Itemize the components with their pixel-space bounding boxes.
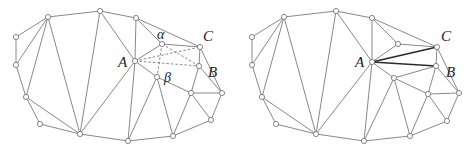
vertex-node bbox=[259, 94, 264, 99]
label-B-left: B bbox=[208, 64, 217, 80]
vertex-node bbox=[456, 90, 461, 95]
triangulation-edge bbox=[316, 134, 364, 141]
triangulation-edge bbox=[428, 66, 436, 94]
triangulation-edge bbox=[128, 61, 135, 141]
triangulation-edge bbox=[276, 124, 316, 134]
triangulation-edge bbox=[135, 61, 157, 77]
vertex-node bbox=[273, 121, 278, 126]
vertex-node bbox=[313, 131, 318, 136]
vertex-node bbox=[434, 44, 439, 49]
triangulation-edge bbox=[428, 94, 447, 121]
triangulation-edge bbox=[191, 93, 211, 120]
vertex-node bbox=[249, 34, 254, 39]
triangulation-edge bbox=[284, 17, 316, 134]
flipped-edge bbox=[372, 47, 437, 62]
triangulation-edge bbox=[128, 77, 157, 141]
triangulation-edge bbox=[16, 65, 26, 97]
vertex-node bbox=[444, 118, 449, 123]
label-C-left: C bbox=[203, 28, 214, 44]
triangulation-edge bbox=[336, 11, 372, 18]
vertex-node bbox=[281, 14, 286, 19]
triangulation-edge bbox=[262, 97, 276, 124]
vertex-node bbox=[37, 121, 42, 126]
triangulation-edge bbox=[316, 11, 336, 134]
triangulation-edge bbox=[428, 93, 459, 94]
triangulation-edge bbox=[447, 93, 459, 121]
vertex-node bbox=[197, 44, 202, 49]
triangulation-edge bbox=[316, 62, 372, 134]
vertex-node bbox=[369, 15, 374, 20]
triangulation-edge bbox=[40, 124, 80, 134]
vertex-node bbox=[433, 63, 438, 68]
triangulation-edge bbox=[284, 11, 336, 17]
triangulation-edge bbox=[135, 18, 136, 61]
vertex-node bbox=[125, 138, 130, 143]
vertex-node bbox=[132, 58, 137, 63]
triangulation-edge bbox=[128, 136, 173, 141]
vertex-node bbox=[249, 62, 254, 67]
vertex-node bbox=[77, 131, 82, 136]
triangulation-edge bbox=[364, 136, 410, 141]
vertex-node bbox=[188, 90, 193, 95]
triangulation-before-edge-flip bbox=[13, 8, 224, 143]
triangulation-after-edge-flip bbox=[249, 8, 461, 143]
label-A-right: A bbox=[354, 54, 365, 70]
triangulation-edge bbox=[336, 11, 372, 62]
triangulation-edge bbox=[394, 78, 410, 136]
vertex-node bbox=[154, 74, 159, 79]
triangulation-edge bbox=[80, 134, 128, 141]
dashed-edge bbox=[162, 44, 199, 66]
label-B-right: B bbox=[446, 64, 455, 80]
label-C-right: C bbox=[441, 28, 452, 44]
dashed-edge bbox=[157, 44, 162, 77]
vertex-node bbox=[97, 8, 102, 13]
vertex-node bbox=[407, 133, 412, 138]
label-alpha: α bbox=[157, 27, 165, 42]
triangulation-edge bbox=[100, 11, 136, 18]
triangulation-edge bbox=[26, 97, 40, 124]
triangulation-edge bbox=[364, 78, 394, 141]
triangulation-edge bbox=[191, 66, 199, 93]
vertex-node bbox=[133, 15, 138, 20]
triangulation-edge bbox=[252, 65, 262, 97]
triangulation-edge bbox=[136, 18, 200, 47]
triangulation-edge bbox=[80, 61, 135, 134]
dashed-edge bbox=[135, 61, 199, 66]
triangulation-edge bbox=[252, 17, 284, 65]
vertex-node bbox=[361, 138, 366, 143]
triangulation-edge bbox=[26, 97, 80, 134]
label-A-left: A bbox=[117, 54, 128, 70]
vertex-node bbox=[395, 41, 400, 46]
dashed-edge bbox=[135, 47, 200, 61]
flipped-edge bbox=[372, 62, 436, 66]
triangulation-edge bbox=[364, 62, 372, 141]
triangulation-edge bbox=[211, 93, 222, 120]
vertex-node bbox=[170, 133, 175, 138]
triangulation-edge bbox=[372, 62, 394, 78]
vertex-node bbox=[391, 75, 396, 80]
triangulation-edge bbox=[372, 18, 437, 47]
triangulation-figure: A C B α β A C B bbox=[0, 0, 472, 153]
label-beta: β bbox=[163, 70, 171, 85]
triangulation-edge bbox=[372, 18, 398, 44]
triangulation-edge bbox=[157, 77, 173, 136]
vertex-node bbox=[425, 91, 430, 96]
triangulation-edge bbox=[394, 78, 428, 94]
vertex-node bbox=[159, 41, 164, 46]
vertex-node bbox=[23, 94, 28, 99]
triangulation-edge bbox=[80, 11, 100, 134]
triangulation-edge bbox=[48, 11, 100, 17]
vertex-node bbox=[13, 34, 18, 39]
triangulation-edge bbox=[48, 17, 80, 134]
triangulation-edge bbox=[262, 97, 316, 134]
vertex-node bbox=[196, 63, 201, 68]
triangulation-edge bbox=[157, 77, 191, 93]
triangulation-edge bbox=[394, 66, 436, 78]
vertex-node bbox=[219, 90, 224, 95]
vertex-node bbox=[333, 8, 338, 13]
vertex-node bbox=[45, 14, 50, 19]
vertex-node bbox=[369, 59, 374, 64]
vertex-node bbox=[13, 62, 18, 67]
triangulation-edge bbox=[16, 17, 48, 65]
vertex-node bbox=[208, 117, 213, 122]
